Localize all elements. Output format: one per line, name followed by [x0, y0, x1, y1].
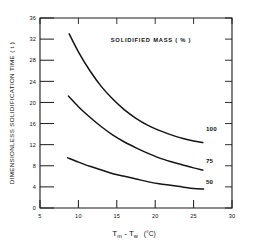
y-tick-label: 32	[29, 36, 36, 42]
x-tick-label: 20	[152, 213, 159, 219]
y-tick-label: 16	[29, 121, 36, 127]
plot-title: SOLIDIFIED MASS ( % )	[111, 37, 191, 43]
curve-label-75: 75	[206, 157, 214, 164]
y-tick-label: 0	[33, 205, 36, 211]
curve-end-labels: 1007550	[206, 125, 217, 185]
x-tick-label: 25	[190, 213, 197, 219]
y-axis-label: DIMENSIONLESS SOLIDIFICATION TIME ( t )	[8, 42, 15, 184]
y-tick-label: 12	[29, 142, 36, 148]
curve-50	[68, 158, 204, 189]
y-tick-label: 4	[33, 184, 36, 190]
x-tick-label: 5	[38, 213, 41, 219]
x-label-dash: - T	[122, 229, 134, 238]
x-label-unit: (°C)	[144, 230, 156, 238]
y-tick-label: 8	[33, 163, 36, 169]
y-tick-label: 36	[29, 15, 36, 21]
curve-100	[69, 34, 203, 143]
x-tick-label: 15	[113, 213, 120, 219]
solidification-time-chart: 04812162024283236 51015202530 1007550 SO…	[0, 0, 253, 245]
data-curves	[68, 34, 204, 189]
x-tick-label: 30	[229, 213, 236, 219]
x-label-sub-w: w	[133, 233, 139, 239]
x-tick-label: 10	[75, 213, 82, 219]
svg-text:Tm - Tw(°C): Tm - Tw(°C)	[112, 229, 155, 239]
y-axis-tick-labels: 04812162024283236	[29, 15, 36, 211]
x-axis-label: Tm - Tw(°C)	[112, 229, 155, 239]
y-tick-label: 24	[29, 79, 36, 85]
chart-figure: 04812162024283236 51015202530 1007550 SO…	[0, 0, 253, 245]
x-axis-tick-labels: 51015202530	[38, 213, 235, 219]
y-tick-label: 20	[29, 100, 36, 106]
curve-75	[68, 96, 202, 170]
curve-label-50: 50	[206, 178, 214, 185]
y-axis-label-text: DIMENSIONLESS SOLIDIFICATION TIME ( t )	[8, 42, 15, 184]
y-tick-label: 28	[29, 57, 36, 63]
curve-label-100: 100	[206, 125, 217, 132]
